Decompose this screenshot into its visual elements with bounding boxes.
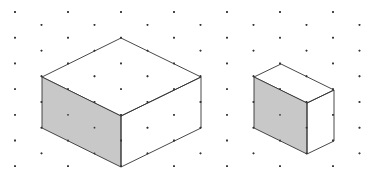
grid-dot bbox=[67, 140, 69, 142]
grid-dot bbox=[14, 88, 16, 90]
grid-dot bbox=[332, 140, 334, 142]
grid-dot bbox=[67, 11, 69, 13]
isometric-diagram bbox=[0, 0, 377, 174]
grid-dot bbox=[279, 11, 281, 13]
grid-dot bbox=[253, 75, 255, 77]
grid-dot bbox=[67, 37, 69, 39]
grid-dot bbox=[173, 88, 175, 90]
grid-dot bbox=[41, 75, 43, 77]
grid-dot bbox=[67, 165, 69, 167]
grid-dot bbox=[67, 114, 69, 116]
grid-dot bbox=[332, 11, 334, 13]
grid-dot bbox=[279, 88, 281, 90]
grid-dot bbox=[67, 88, 69, 90]
grid-dot bbox=[173, 114, 175, 116]
grid-dot bbox=[120, 11, 122, 13]
grid-dot bbox=[359, 50, 361, 52]
grid-dot bbox=[200, 24, 202, 26]
grid-dot bbox=[41, 101, 43, 103]
grid-dot bbox=[120, 37, 122, 39]
grid-dot bbox=[173, 37, 175, 39]
grid-dot bbox=[306, 50, 308, 52]
grid-dot bbox=[173, 165, 175, 167]
grid-dot bbox=[226, 63, 228, 65]
grid-dot bbox=[359, 75, 361, 77]
grid-dot bbox=[279, 63, 281, 65]
grid-dot bbox=[306, 127, 308, 129]
grid-dot bbox=[253, 127, 255, 129]
grid-dot bbox=[94, 75, 96, 77]
grid-dot bbox=[41, 127, 43, 129]
grid-dot bbox=[226, 165, 228, 167]
grid-dot bbox=[332, 165, 334, 167]
grid-dot bbox=[14, 114, 16, 116]
grid-dot bbox=[332, 37, 334, 39]
grid-dot bbox=[41, 152, 43, 154]
grid-dot bbox=[226, 114, 228, 116]
grid-dot bbox=[359, 101, 361, 103]
grid-dot bbox=[306, 101, 308, 103]
grid-dot bbox=[147, 50, 149, 52]
grid-dot bbox=[253, 50, 255, 52]
grid-dot bbox=[359, 127, 361, 129]
grid-dot bbox=[253, 24, 255, 26]
grid-dot bbox=[147, 101, 149, 103]
grid-dot bbox=[306, 24, 308, 26]
small-cuboid bbox=[254, 64, 334, 154]
grid-dot bbox=[147, 152, 149, 154]
grid-dot bbox=[253, 152, 255, 154]
grid-dot bbox=[200, 127, 202, 129]
grid-dot bbox=[94, 152, 96, 154]
grid-dot bbox=[120, 114, 122, 116]
grid-dot bbox=[332, 114, 334, 116]
large-cuboid bbox=[42, 38, 201, 167]
grid-dot bbox=[226, 11, 228, 13]
grid-dot bbox=[200, 101, 202, 103]
grid-dot bbox=[200, 75, 202, 77]
grid-dot bbox=[332, 63, 334, 65]
grid-dot bbox=[173, 11, 175, 13]
grid-dot bbox=[147, 24, 149, 26]
grid-dot bbox=[120, 63, 122, 65]
grid-dot bbox=[120, 88, 122, 90]
grid-dot bbox=[306, 75, 308, 77]
grid-dot bbox=[173, 63, 175, 65]
grid-dot bbox=[94, 101, 96, 103]
grid-dot bbox=[14, 37, 16, 39]
grid-dot bbox=[147, 75, 149, 77]
grid-dot bbox=[14, 165, 16, 167]
grid-dot bbox=[120, 140, 122, 142]
grid-dot bbox=[226, 37, 228, 39]
grid-dot bbox=[226, 88, 228, 90]
cuboids bbox=[42, 38, 334, 167]
grid-dot bbox=[120, 165, 122, 167]
grid-dot bbox=[67, 63, 69, 65]
grid-dot bbox=[147, 127, 149, 129]
grid-dot bbox=[200, 50, 202, 52]
grid-dot bbox=[94, 50, 96, 52]
grid-dot bbox=[279, 114, 281, 116]
grid-dot bbox=[279, 165, 281, 167]
grid-dot bbox=[94, 127, 96, 129]
grid-dot bbox=[253, 101, 255, 103]
grid-dot bbox=[306, 152, 308, 154]
grid-dot bbox=[173, 140, 175, 142]
grid-dot bbox=[359, 24, 361, 26]
grid-dot bbox=[332, 88, 334, 90]
grid-dot bbox=[41, 24, 43, 26]
grid-dot bbox=[226, 140, 228, 142]
grid-dot bbox=[359, 152, 361, 154]
grid-dot bbox=[41, 50, 43, 52]
grid-dot bbox=[279, 37, 281, 39]
grid-dot bbox=[14, 63, 16, 65]
grid-dot bbox=[279, 140, 281, 142]
grid-dot bbox=[200, 152, 202, 154]
grid-dot bbox=[94, 24, 96, 26]
grid-dot bbox=[14, 11, 16, 13]
grid-dot bbox=[14, 140, 16, 142]
